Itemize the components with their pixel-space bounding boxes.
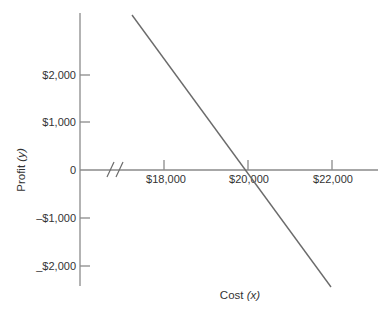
y-tick-label: $1,000 (42, 116, 76, 128)
y-tick-label: _$2,000 (35, 260, 76, 272)
y-tick-label: –$1,000 (36, 212, 76, 224)
profit-line (132, 15, 331, 287)
x-tick-label: $22,000 (313, 173, 353, 185)
y-tick-label: 0 (70, 164, 76, 176)
y-axis-label: Profit (y) (15, 148, 27, 192)
x-ticks (164, 160, 332, 170)
x-axis-label: Cost (x) (220, 289, 260, 301)
y-tick-label: $2,000 (42, 69, 76, 81)
chart-canvas: $2,000 $1,000 0 –$1,000 _$2,000 $18,000 … (0, 0, 391, 316)
x-tick-label: $18,000 (146, 173, 186, 185)
